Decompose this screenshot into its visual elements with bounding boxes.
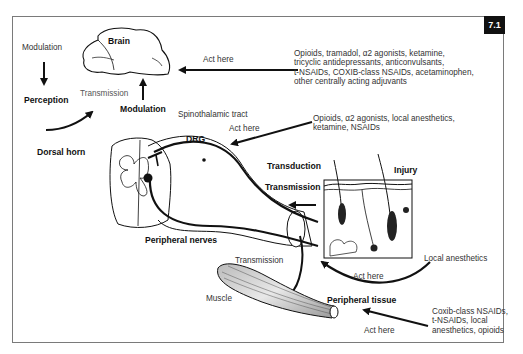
label-injury: Injury bbox=[394, 166, 417, 176]
label-transduction: Transduction bbox=[267, 162, 321, 172]
drugs-peripheral-nerves: Local anesthetics bbox=[424, 254, 487, 263]
act-here-peripheral-nerves: Act here bbox=[353, 272, 384, 281]
drugs-drg: Opioids, α2 agonists, local anesthetics,… bbox=[313, 114, 455, 133]
label-dorsal-horn: Dorsal horn bbox=[37, 148, 85, 158]
muscle-illustration bbox=[218, 264, 338, 318]
label-drg: DRG bbox=[186, 135, 205, 145]
label-transmission-brain: Transmission bbox=[80, 89, 128, 98]
drugs-brain: Opioids, tramadol, α2 agonists, ketamine… bbox=[294, 49, 474, 87]
label-muscle: Muscle bbox=[206, 294, 232, 303]
label-peripheral-tissue: Peripheral tissue bbox=[327, 296, 396, 306]
label-spinothalamic-tract: Spinothalamic tract bbox=[178, 110, 248, 119]
label-transmission-muscle: Transmission bbox=[235, 256, 283, 265]
act-here-brain: Act here bbox=[203, 55, 234, 64]
drugs-peripheral-tissue: Coxib-class NSAIDs, t-NSAIDs, local anes… bbox=[432, 307, 508, 335]
label-transmission-skin: Transmission bbox=[265, 183, 320, 193]
act-here-peripheral-tissue: Act here bbox=[364, 326, 395, 335]
label-brain: Brain bbox=[108, 37, 130, 47]
label-perception: Perception bbox=[24, 96, 68, 106]
act-here-drg: Act here bbox=[229, 124, 260, 133]
label-modulation-top: Modulation bbox=[22, 43, 62, 52]
label-peripheral-nerves: Peripheral nerves bbox=[145, 236, 217, 246]
label-modulation-center: Modulation bbox=[120, 105, 166, 115]
